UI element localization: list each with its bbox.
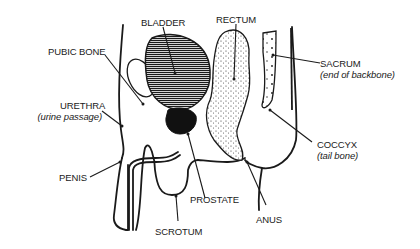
bladder xyxy=(145,35,210,110)
penis-outline xyxy=(114,158,128,230)
label-pubic-bone: PUBIC BONE xyxy=(48,46,106,57)
label-bladder: BLADDER xyxy=(141,17,185,28)
label-prostate: PROSTATE xyxy=(190,194,239,205)
urethra-line-outer xyxy=(129,152,178,230)
label-scrotum: SCROTUM xyxy=(155,226,202,237)
label-urethra-group: URETHRA (urine passage) xyxy=(48,100,102,122)
label-urethra: URETHRA xyxy=(48,100,102,111)
label-sacrum-group: SACRUM (end of backbone) xyxy=(320,58,395,80)
label-sacrum-note: (end of backbone) xyxy=(320,69,395,80)
spine-line xyxy=(291,28,292,110)
label-coccyx: COCCYX xyxy=(317,139,357,150)
label-urethra-note: (urine passage) xyxy=(24,111,102,122)
leader-scrotum xyxy=(176,196,178,221)
diagram-drawing xyxy=(0,0,420,249)
label-coccyx-note: (tail bone) xyxy=(317,150,358,161)
front-body-outline xyxy=(119,25,123,158)
label-rectum: RECTUM xyxy=(216,14,256,25)
anatomy-diagram: BLADDER RECTUM PUBIC BONE SACRUM (end of… xyxy=(0,0,420,249)
label-penis: PENIS xyxy=(59,172,87,183)
label-anus: ANUS xyxy=(256,214,282,225)
label-coccyx-group: COCCYX (tail bone) xyxy=(317,139,358,161)
label-sacrum: SACRUM xyxy=(320,58,361,69)
sacrum xyxy=(262,31,276,108)
leader-penis xyxy=(90,162,120,177)
leader-prostate xyxy=(188,134,205,198)
prostate xyxy=(166,108,196,134)
leader-sacrum xyxy=(273,55,320,63)
rectum xyxy=(207,30,250,160)
leader-coccyx xyxy=(270,110,312,142)
